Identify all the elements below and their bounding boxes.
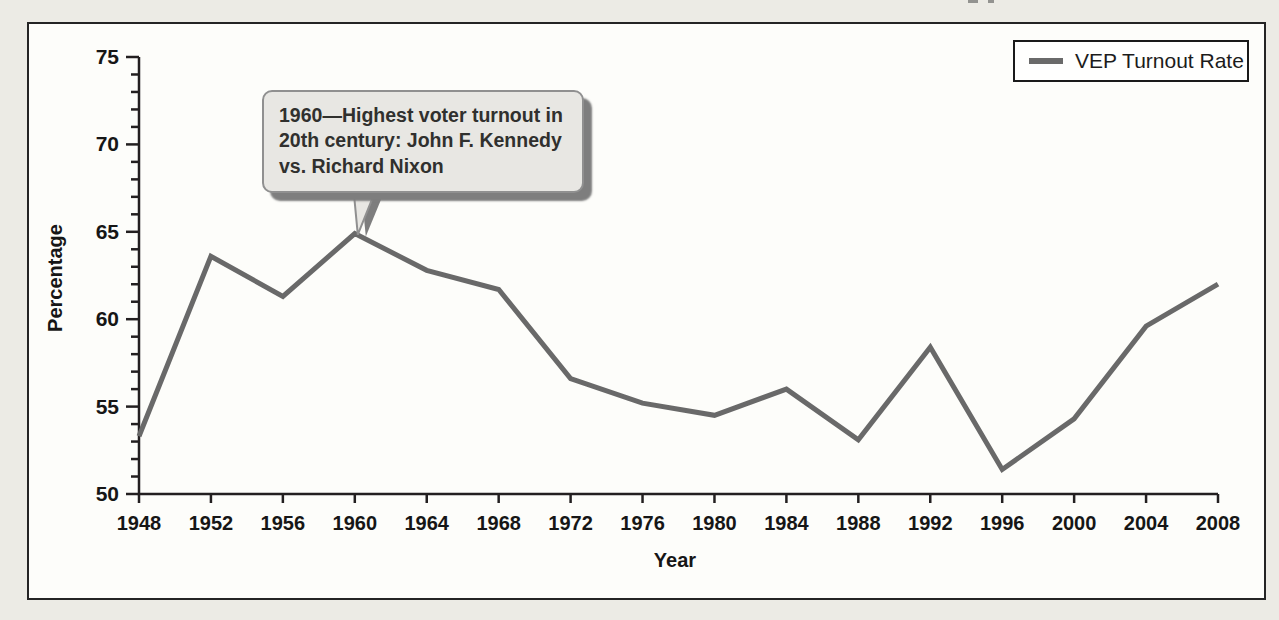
- cropped-text-artifact: [968, 0, 978, 3]
- x-tick-label: 1980: [692, 512, 737, 534]
- x-tick-label: 1976: [620, 512, 665, 534]
- x-tick-label: 1972: [548, 512, 593, 534]
- x-tick-label: 1996: [980, 512, 1024, 534]
- line-chart-plot: 5055606570751948195219561960196419681972…: [29, 24, 1264, 598]
- x-tick-label: 1964: [404, 512, 449, 534]
- x-tick-label: 2008: [1196, 512, 1241, 534]
- x-tick-label: 2004: [1124, 512, 1169, 534]
- legend-line-swatch: [1029, 58, 1063, 64]
- x-axis-title: Year: [575, 547, 775, 573]
- y-tick-label: 60: [96, 307, 119, 330]
- x-tick-label: 1960: [333, 512, 378, 534]
- annotation-text-line: 1960—Highest voter turnout in: [279, 103, 567, 128]
- annotation-text-line: 20th century: John F. Kennedy: [279, 128, 567, 153]
- x-tick-label: 1992: [908, 512, 953, 534]
- page: { "page": { "background": "#ecebe5" }, "…: [0, 0, 1279, 620]
- annotation-callout: 1960—Highest voter turnout in 20th centu…: [262, 90, 584, 193]
- vep-turnout-line: [139, 234, 1218, 470]
- y-tick-label: 65: [96, 220, 120, 243]
- y-axis-title: Percentage: [42, 178, 68, 378]
- annotation-text-line: vs. Richard Nixon: [279, 154, 567, 179]
- cropped-text-artifact: [988, 0, 994, 3]
- y-tick-label: 70: [96, 132, 119, 155]
- chart-figure: 5055606570751948195219561960196419681972…: [27, 22, 1266, 600]
- x-tick-label: 1956: [261, 512, 306, 534]
- x-tick-label: 1988: [836, 512, 881, 534]
- x-tick-label: 1948: [117, 512, 162, 534]
- x-tick-label: 2000: [1052, 512, 1097, 534]
- legend-label: VEP Turnout Rate: [1075, 49, 1244, 73]
- x-tick-label: 1968: [476, 512, 521, 534]
- x-tick-label: 1952: [189, 512, 234, 534]
- x-tick-label: 1984: [764, 512, 809, 534]
- legend-box: VEP Turnout Rate: [1013, 40, 1249, 82]
- y-tick-label: 50: [96, 482, 119, 505]
- y-tick-label: 55: [96, 395, 120, 418]
- y-tick-label: 75: [96, 45, 120, 68]
